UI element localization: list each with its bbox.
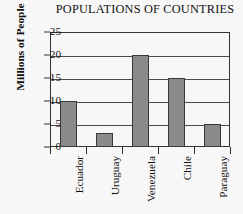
x-tick-mark xyxy=(158,147,159,154)
chart-title: POPULATIONS OF COUNTRIES xyxy=(52,2,238,17)
x-tick-mark xyxy=(50,147,51,154)
x-tick-label: Paraguay xyxy=(217,156,229,198)
bar xyxy=(204,124,221,147)
x-tick-mark xyxy=(122,147,123,154)
x-tick-label: Chile xyxy=(181,156,193,180)
bars-layer xyxy=(50,32,230,147)
bar xyxy=(168,78,185,147)
x-tick-mark xyxy=(230,147,231,154)
bar xyxy=(132,55,149,147)
x-tick-label: Uruguay xyxy=(109,156,121,195)
bar-chart: POPULATIONS OF COUNTRIES Millions of Peo… xyxy=(0,0,243,214)
y-axis-title: Millions of People xyxy=(14,0,26,105)
bar xyxy=(96,133,113,147)
x-tick-label: Venezuela xyxy=(145,156,157,202)
x-tick-label: Ecuador xyxy=(73,156,85,193)
bar xyxy=(60,101,77,147)
x-tick-mark xyxy=(86,147,87,154)
x-tick-mark xyxy=(194,147,195,154)
